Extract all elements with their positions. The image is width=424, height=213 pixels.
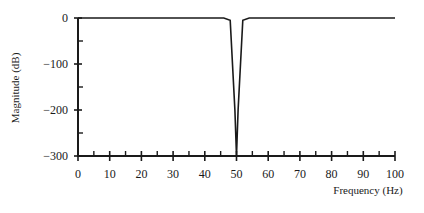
x-tick-label: 30 [167, 167, 179, 181]
y-tick-label: −300 [43, 149, 68, 163]
y-tick-label: −100 [43, 57, 68, 71]
y-tick-label: −200 [43, 103, 68, 117]
x-tick-label: 40 [199, 167, 211, 181]
x-tick-label: 70 [294, 167, 306, 181]
x-tick-label: 80 [326, 167, 338, 181]
chart-plot: 01020304050607080901000−100−200−300 Freq… [0, 0, 424, 213]
x-tick-label: 20 [135, 167, 147, 181]
x-tick-label: 90 [357, 167, 369, 181]
magnitude-response-line [78, 18, 395, 156]
y-tick-label: 0 [62, 11, 68, 25]
x-tick-label: 10 [104, 167, 116, 181]
x-tick-label: 100 [386, 167, 404, 181]
x-tick-label: 60 [262, 167, 274, 181]
x-axis-title: Frequency (Hz) [333, 184, 403, 197]
y-axis-title: Magnitude (dB) [9, 52, 22, 123]
x-tick-label: 0 [75, 167, 81, 181]
x-tick-label: 50 [231, 167, 243, 181]
